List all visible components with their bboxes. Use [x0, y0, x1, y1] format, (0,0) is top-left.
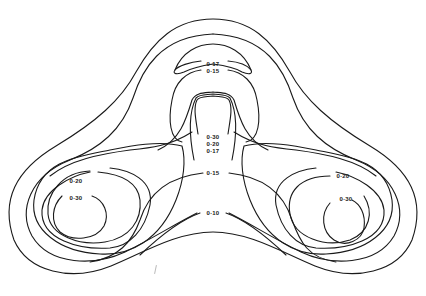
label-left-030: 0·30 [70, 195, 83, 201]
contour-diagram: 0·17 0·15 0·30 0·20 0·17 0·15 0·10 0·20 … [0, 0, 426, 296]
contour-020-left [48, 171, 140, 243]
label-top-017: 0·17 [207, 61, 220, 67]
contour-020-right [289, 176, 369, 243]
contour-030-left [53, 196, 106, 238]
label-center-017: 0·17 [207, 148, 220, 154]
contour-030-center [195, 96, 231, 134]
contour-030-right [324, 200, 365, 243]
contour-017-left [34, 143, 184, 254]
label-left-020: 0·20 [70, 178, 83, 184]
label-top-015: 0·15 [207, 68, 220, 74]
label-right-020: 0·20 [337, 173, 350, 179]
label-right-030: 0·30 [340, 196, 353, 202]
contour-020-left-outer [42, 168, 151, 248]
label-center-015: 0·15 [207, 170, 220, 176]
label-center-030: 0·30 [207, 134, 220, 140]
label-center-020: 0·20 [207, 141, 220, 147]
label-bottom-010: 0·10 [207, 210, 220, 216]
contour-015-top [170, 70, 201, 142]
contour-017-right [242, 143, 392, 254]
